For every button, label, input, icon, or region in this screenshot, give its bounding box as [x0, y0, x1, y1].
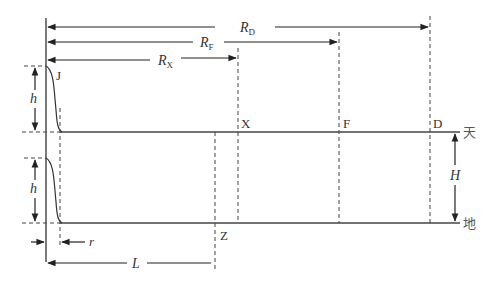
point-x-label: X	[241, 116, 251, 131]
rd-label: RD	[239, 20, 256, 37]
point-f-label: F	[343, 116, 350, 131]
h-top-label: h	[30, 91, 37, 106]
h-bottom-label: h	[30, 181, 37, 196]
rx-label: RX	[157, 53, 174, 70]
point-d-label: D	[433, 116, 442, 131]
range-diagram: RD RF RX h h H r L J X F D Z 天 地	[0, 0, 502, 288]
L-label: L	[131, 256, 140, 271]
H-label: H	[449, 168, 461, 183]
ground-label: 地	[463, 216, 476, 231]
rf-label: RF	[199, 35, 214, 52]
sky-label: 天	[463, 125, 476, 140]
r-label: r	[89, 234, 95, 249]
point-j-label: J	[56, 68, 61, 83]
point-z-label: Z	[220, 228, 228, 243]
